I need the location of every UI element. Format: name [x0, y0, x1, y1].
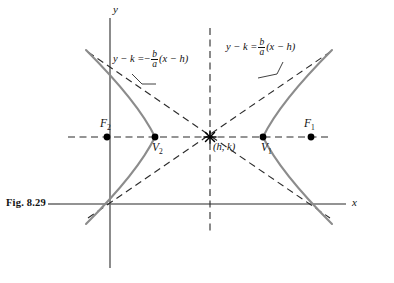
right-equation-lhs: y − k = [226, 41, 257, 52]
left-equation-lhs: y − k = [113, 53, 144, 64]
focus-F2-sub: 2 [107, 123, 111, 132]
right-equation-rhs: (x − h) [266, 41, 295, 52]
x-axis-label: x [352, 196, 357, 208]
vertex-V1-base: V [261, 141, 268, 153]
figure-container: Fig. 8.29 y x y − k =−ba(x − h) y − k =b… [0, 0, 394, 283]
left-equation-denominator: a [151, 59, 158, 70]
vertex-V2-sub: 2 [159, 147, 163, 156]
vertex-V1-label: V1 [261, 141, 272, 156]
figure-caption: Fig. 8.29 [6, 197, 46, 208]
right-equation-leader [258, 62, 283, 78]
focus-F1-sub: 1 [311, 123, 315, 132]
focus-F2-label: F2 [100, 117, 111, 132]
hyperbola-diagram [0, 0, 394, 283]
focus-F1-label: F1 [304, 117, 315, 132]
right-equation-numerator: b [258, 38, 265, 48]
left-equation-sign: − [144, 53, 150, 64]
vertex-V1-dot [260, 134, 267, 141]
center-coordinate-label: (h, k) [213, 141, 235, 152]
left-asymptote-equation: y − k =−ba(x − h) [113, 50, 188, 70]
focus-F2-dot [104, 134, 111, 141]
left-equation-leader [132, 74, 156, 84]
right-equation-fraction: ba [258, 38, 265, 58]
vertex-V2-dot [152, 134, 159, 141]
left-equation-rhs: (x − h) [159, 53, 188, 64]
vertex-V2-label: V2 [152, 141, 163, 156]
left-equation-fraction: ba [151, 50, 158, 70]
right-asymptote-equation: y − k =ba(x − h) [226, 38, 295, 58]
left-equation-numerator: b [151, 50, 158, 60]
y-axis-label: y [113, 3, 118, 15]
focus-F1-dot [308, 134, 315, 141]
vertex-V1-sub: 1 [268, 147, 272, 156]
vertex-V2-base: V [152, 141, 159, 153]
right-equation-denominator: a [258, 47, 265, 58]
focus-F1-base: F [304, 117, 311, 129]
focus-F2-base: F [100, 117, 107, 129]
